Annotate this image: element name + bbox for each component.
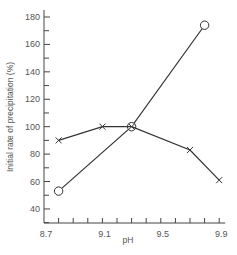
y-tick-label: 100: [25, 122, 40, 132]
cross-marker-icon: [216, 177, 222, 183]
y-axis-title: Initial rate of precipitation (%): [5, 62, 15, 172]
y-tick-label: 60: [30, 177, 40, 187]
x-tick-label: 9.9: [215, 229, 228, 239]
x-tick-label: 9.1: [98, 229, 111, 239]
y-tick-label: 120: [25, 94, 40, 104]
series-line-crosses: [59, 127, 220, 180]
series-line-circles: [59, 25, 205, 191]
circle-marker-icon: [200, 21, 208, 29]
y-tick-label: 160: [25, 39, 40, 49]
x-axis-title: pH: [123, 235, 134, 245]
axes: 4060801001201401601808.79.19.59.9: [25, 10, 227, 239]
x-tick-label: 8.7: [40, 229, 53, 239]
series-layer: [54, 21, 222, 195]
y-tick-label: 80: [30, 149, 40, 159]
chart: 4060801001201401601808.79.19.59.9 pH Ini…: [0, 0, 237, 255]
circle-marker-icon: [54, 187, 62, 195]
cross-marker-icon: [187, 147, 193, 153]
x-tick-label: 9.5: [157, 229, 170, 239]
cross-marker-icon: [56, 137, 62, 143]
y-tick-label: 180: [25, 12, 40, 22]
y-tick-label: 40: [30, 204, 40, 214]
y-tick-label: 140: [25, 67, 40, 77]
